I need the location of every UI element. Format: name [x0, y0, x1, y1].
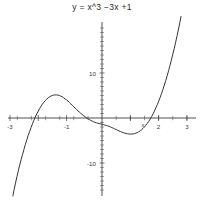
x-tick-label-neg1: -1 — [64, 123, 70, 130]
y-tick-label-10: 10 — [89, 70, 96, 77]
y-tick-label-neg10: -10 — [87, 160, 97, 167]
x-tick-label-neg3: -3 — [7, 123, 13, 130]
x-tick-label-3: 3 — [185, 123, 189, 130]
function-curve — [13, 17, 181, 197]
x-tick-label-2: 2 — [157, 123, 161, 130]
plot-canvas: -3 -1 2 3 10 -10 x — [0, 0, 204, 209]
plot-container: y = x^3 −3x +1 — [0, 0, 204, 209]
x-axis-label: x — [141, 122, 145, 128]
